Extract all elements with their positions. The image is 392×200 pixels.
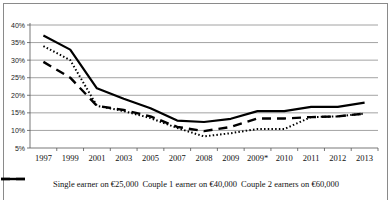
y-tick-label: 15% [11, 109, 25, 116]
x-tick-label: 2008 [196, 153, 213, 163]
x-tick-label: 2001 [88, 153, 105, 163]
legend-item-couple-2-earners: Couple 2 earners on €60,000 [241, 179, 339, 189]
y-tick-label: 30% [11, 57, 25, 64]
x-tick-label: 2011 [303, 153, 320, 163]
x-tick-label: 2013 [356, 153, 373, 163]
chart-legend: Single earner on €25,000 Couple 1 earner… [0, 176, 392, 192]
y-tick-label: 10% [11, 127, 25, 134]
y-tick-label: 35% [11, 39, 25, 46]
x-tick-label: 2012 [329, 153, 346, 163]
line-chart: 5%10%15%20%25%30%35%40%19971999200120032… [0, 0, 392, 176]
series-line-solid [43, 36, 364, 123]
x-tick-label: 1997 [35, 153, 52, 163]
x-tick-label: 1999 [62, 153, 79, 163]
x-tick-label: 2007 [169, 153, 186, 163]
x-tick-label: 2005 [142, 153, 159, 163]
x-tick-label: 2010 [276, 153, 293, 163]
series-line-dashed [43, 62, 364, 131]
x-tick-label: 2009 [222, 153, 239, 163]
x-tick-label: 2003 [115, 153, 132, 163]
y-tick-label: 5% [15, 145, 25, 152]
legend-label: Single earner on €25,000 [53, 179, 138, 189]
x-tick-label: 2009* [247, 153, 268, 163]
legend-item-couple-1-earner: Couple 1 earner on €40,000 [142, 179, 237, 189]
y-tick-label: 40% [11, 22, 25, 29]
legend-item-single-earner: Single earner on €25,000 [53, 179, 138, 189]
y-tick-label: 25% [11, 74, 25, 81]
solid-line-swatch-icon [0, 176, 26, 182]
legend-label: Couple 1 earner on €40,000 [142, 179, 237, 189]
legend-label: Couple 2 earners on €60,000 [241, 179, 339, 189]
y-tick-label: 20% [11, 92, 25, 99]
